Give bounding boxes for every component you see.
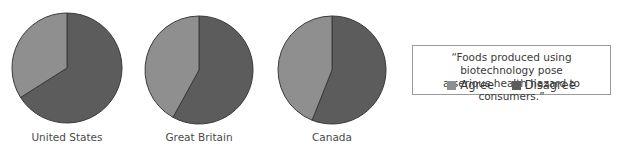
legend-quote: “Foods produced using biotechnology pose…: [413, 51, 610, 103]
legend-box: “Foods produced using biotechnology pose…: [412, 45, 611, 95]
legend-item-disagree: Disagree: [512, 79, 576, 92]
legend-items: Agree Disagree: [413, 79, 610, 93]
pie-chart-great-britain: Great Britain: [134, 0, 264, 156]
pie-great-britain: [134, 0, 264, 130]
pie-label-united-states: United States: [2, 131, 132, 143]
legend-label-disagree: Disagree: [525, 79, 576, 92]
agree-swatch-icon: [447, 81, 456, 90]
pie-chart-united-states: United States: [2, 0, 132, 156]
disagree-swatch-icon: [512, 81, 521, 90]
pie-canada: [267, 0, 397, 130]
pie-chart-canada: Canada: [267, 0, 397, 156]
legend-item-agree: Agree: [447, 79, 494, 92]
legend-label-agree: Agree: [460, 79, 494, 92]
pie-united-states: [2, 0, 132, 130]
legend-quote-line-1: “Foods produced using biotechnology pose: [413, 51, 610, 77]
pie-label-great-britain: Great Britain: [134, 131, 264, 143]
pie-label-canada: Canada: [267, 131, 397, 143]
